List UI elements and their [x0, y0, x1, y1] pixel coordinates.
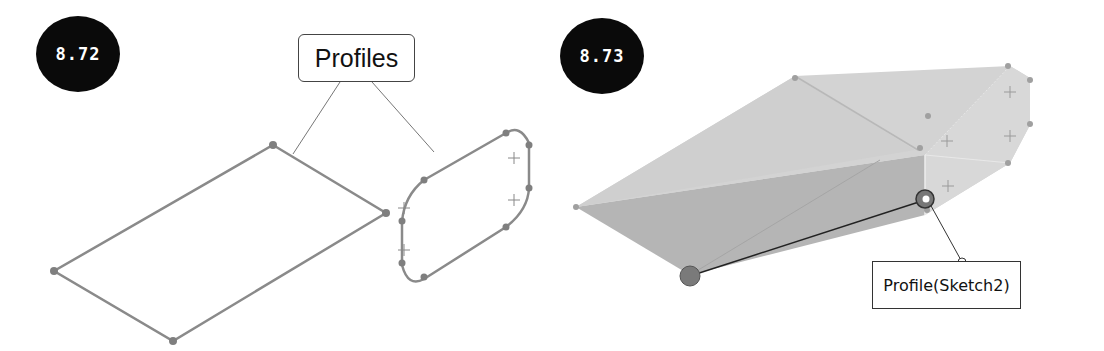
parallelogram-profile: [54, 145, 386, 341]
figure-8-72: [50, 82, 533, 345]
profiles-callout: Profiles: [298, 34, 415, 82]
leader-line: [372, 82, 434, 152]
profile-sketch2-callout: Profile(Sketch2): [872, 261, 1021, 309]
figure-number-badge: 8.73: [560, 18, 644, 94]
figure-8-73: [573, 63, 1033, 286]
figure-number-badge: 8.72: [36, 16, 120, 92]
center-marks: [398, 152, 520, 256]
rounded-profile: [402, 130, 529, 281]
label-leader: [930, 204, 962, 262]
connector-handle-start[interactable]: [680, 266, 700, 286]
leader-line: [293, 82, 340, 154]
